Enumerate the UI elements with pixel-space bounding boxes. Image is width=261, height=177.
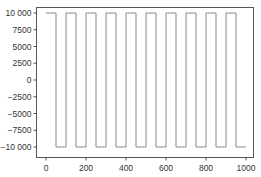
y-tick-label: 0 [27, 75, 32, 85]
y-tick-label: 10 000 [6, 8, 32, 18]
x-tick-label: 0 [44, 163, 49, 173]
y-tick-label: −10 000 [1, 142, 32, 152]
y-tick-label: 2500 [13, 58, 32, 68]
y-tick-label: 7500 [13, 25, 32, 35]
x-tick-label: 600 [159, 163, 173, 173]
x-tick-label: 200 [79, 163, 93, 173]
x-tick-label: 400 [119, 163, 133, 173]
plot-area [46, 13, 246, 147]
plot-frame [37, 8, 254, 158]
y-tick-label: −7500 [8, 125, 32, 135]
square-wave-chart: 10 0007500500025000−2500−5000−7500−10 00… [0, 0, 261, 177]
x-tick-label: 1000 [237, 163, 256, 173]
x-tick-label: 800 [199, 163, 213, 173]
series-line-0 [46, 13, 246, 147]
y-axis: 10 0007500500025000−2500−5000−7500−10 00… [1, 8, 37, 152]
x-axis: 02004006008001000 [44, 158, 256, 173]
y-tick-label: −2500 [8, 92, 32, 102]
y-tick-label: −5000 [8, 109, 32, 119]
y-tick-label: 5000 [13, 42, 32, 52]
